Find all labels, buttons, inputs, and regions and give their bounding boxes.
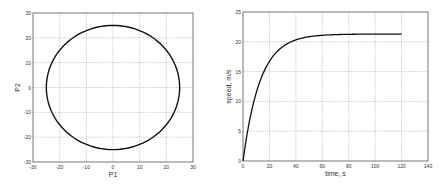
y-axis-label: P2 bbox=[14, 83, 21, 92]
x-tick-label: -10 bbox=[83, 164, 90, 170]
x-tick-label: 30 bbox=[190, 164, 196, 170]
y-tick-label: 10 bbox=[25, 60, 31, 66]
y-tick-label: 15 bbox=[235, 69, 241, 75]
y-tick-label: 10 bbox=[235, 98, 241, 104]
phase-plot: -30-20-100102030-30-20-100102030P1P2 bbox=[14, 10, 196, 178]
y-tick-label: -20 bbox=[24, 134, 31, 140]
y-tick-label: -30 bbox=[24, 159, 31, 165]
x-tick-label: 100 bbox=[371, 163, 380, 169]
y-tick-label: -10 bbox=[24, 109, 31, 115]
y-axis-label: speed, m/s bbox=[225, 69, 233, 104]
x-tick-label: 80 bbox=[346, 163, 352, 169]
y-tick-label: 30 bbox=[25, 10, 31, 16]
x-tick-label: 10 bbox=[137, 164, 143, 170]
x-tick-label: 140 bbox=[424, 163, 433, 169]
y-tick-label: 0 bbox=[238, 158, 241, 164]
x-tick-label: 60 bbox=[320, 163, 326, 169]
x-tick-label: 0 bbox=[112, 164, 115, 170]
y-tick-label: 5 bbox=[238, 128, 241, 134]
y-tick-label: 0 bbox=[28, 85, 31, 91]
y-tick-label: 20 bbox=[25, 35, 31, 41]
speed-plot: 0204060801001201400510152025time, sspeed… bbox=[225, 9, 432, 177]
figure: -30-20-100102030-30-20-100102030P1P2 020… bbox=[0, 0, 446, 185]
x-tick-label: 0 bbox=[242, 163, 245, 169]
y-tick-label: 25 bbox=[235, 9, 241, 15]
x-tick-label: 120 bbox=[397, 163, 406, 169]
y-tick-label: 20 bbox=[235, 39, 241, 45]
x-tick-label: 20 bbox=[267, 163, 273, 169]
x-axis-label: P1 bbox=[109, 171, 118, 178]
x-axis-label: time, s bbox=[325, 170, 346, 177]
x-tick-label: 40 bbox=[293, 163, 299, 169]
x-tick-label: -20 bbox=[56, 164, 63, 170]
x-tick-label: 20 bbox=[164, 164, 170, 170]
